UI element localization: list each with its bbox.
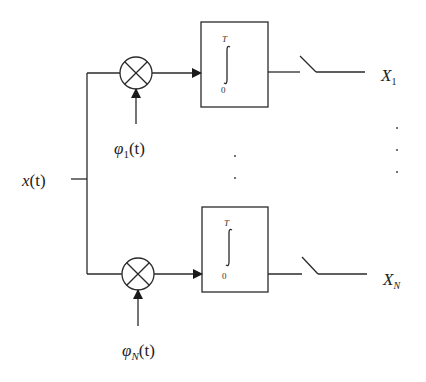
integral-icon — [226, 229, 232, 265]
basis-label-n: φN(t) — [122, 341, 155, 362]
upper-limit: T — [224, 218, 230, 228]
basis-label-1: φ1(t) — [114, 139, 145, 160]
multiplier-icon — [120, 57, 152, 89]
sampling-switch-n — [268, 257, 367, 274]
branch-1: φ1(t) T 0 X1 — [87, 22, 396, 160]
switch-icon — [300, 56, 316, 72]
input-label: x(t) — [21, 171, 46, 190]
upper-limit: T — [222, 34, 228, 44]
sampling-switch-1 — [268, 56, 365, 72]
multiplier-icon — [122, 258, 154, 290]
output-label-n: XN — [382, 270, 401, 291]
output-label-1: X1 — [380, 66, 396, 87]
branch-n: φN(t) T 0 XN — [87, 207, 401, 362]
lower-limit: 0 — [222, 271, 227, 281]
ellipsis-middle — [234, 155, 236, 179]
switch-icon — [302, 257, 318, 274]
ellipsis-right — [396, 127, 398, 173]
integrator-block-n: T 0 — [202, 207, 268, 292]
integral-icon — [224, 46, 230, 83]
integrator-block-1: T 0 — [201, 22, 268, 107]
input-signal: x(t) — [21, 73, 87, 274]
correlator-diagram: x(t) φ1(t) T 0 X1 — [0, 0, 426, 382]
lower-limit: 0 — [221, 85, 226, 95]
